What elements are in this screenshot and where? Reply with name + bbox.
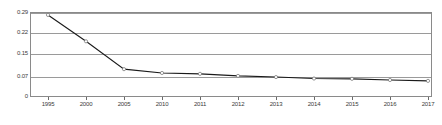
x-axis-tickmark (86, 97, 87, 100)
x-axis-tick-label: 2011 (194, 101, 206, 108)
x-axis-tick-label: 1995 (42, 101, 55, 108)
y-axis-tick-label: 0 (25, 93, 28, 100)
x-axis-tickmark (162, 97, 163, 100)
x-axis-tickmark (238, 97, 239, 100)
y-axis-tick-label: 0.15 (17, 50, 28, 57)
x-axis-tick-label: 2016 (384, 101, 397, 108)
gridline (31, 77, 431, 78)
plot-area (30, 12, 432, 97)
x-axis-tickmark (48, 97, 49, 100)
gridline (31, 33, 431, 34)
x-axis-tick-label: 2010 (156, 101, 169, 108)
x-axis-tick-label: 2012 (232, 101, 245, 108)
x-axis-tick-label: 2000 (80, 101, 93, 108)
x-axis-tick-label: 2005 (118, 101, 131, 108)
x-axis-tick-label: 2017 (422, 101, 435, 108)
y-axis-tick-label: 0.29 (17, 9, 28, 16)
x-axis-tickmark (200, 97, 201, 100)
x-axis-tickmark (314, 97, 315, 100)
gridline (31, 13, 431, 14)
x-axis-tick-label: 2013 (270, 101, 283, 108)
x-axis-tickmark (124, 97, 125, 100)
line-chart: 0.29 0.22 0.15 0.07 0 1995 2000 2005 201… (0, 0, 442, 125)
x-axis-tickmark (390, 97, 391, 100)
gridline (31, 54, 431, 55)
x-axis-tick-label: 2014 (308, 101, 321, 108)
x-axis-tickmark (276, 97, 277, 100)
x-axis-tickmark (428, 97, 429, 100)
y-axis-tick-label: 0.22 (17, 29, 28, 36)
x-axis-tick-label: 2015 (346, 101, 359, 108)
y-axis-tick-label: 0.07 (17, 73, 28, 80)
x-axis-tickmark (352, 97, 353, 100)
